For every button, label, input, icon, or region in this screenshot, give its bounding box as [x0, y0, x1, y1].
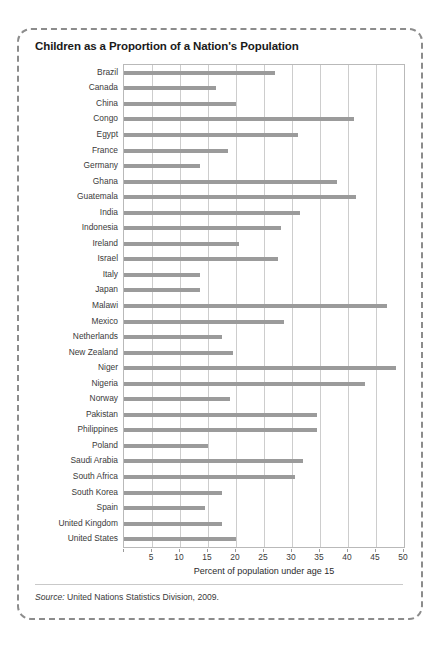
category-label: United Kingdom	[58, 518, 118, 528]
bar	[124, 304, 387, 308]
category-label: Ghana	[93, 176, 118, 186]
tick-label: 35	[314, 552, 323, 562]
bar	[124, 257, 278, 261]
bar	[124, 86, 216, 90]
category-label: Indonesia	[82, 222, 118, 232]
bar	[124, 242, 239, 246]
category-label: Brazil	[97, 67, 118, 77]
plot-area	[123, 64, 405, 548]
bar	[124, 211, 300, 215]
bar	[124, 133, 298, 137]
tick-label: 25	[258, 552, 267, 562]
bar	[124, 195, 356, 199]
category-label: Canada	[89, 82, 118, 92]
bar	[124, 537, 236, 541]
bar	[124, 366, 396, 370]
bar	[124, 288, 200, 292]
bar	[124, 102, 236, 106]
source-label: Source:	[35, 592, 65, 602]
tick-label: 45	[370, 552, 379, 562]
category-label: Japan	[95, 284, 118, 294]
category-label: Pakistan	[86, 409, 118, 419]
category-label: Ireland	[92, 238, 118, 248]
source-note: Source: United Nations Statistics Divisi…	[35, 592, 219, 602]
bar	[124, 164, 200, 168]
category-label: South Korea	[71, 487, 118, 497]
category-axis-labels: BrazilCanadaChinaCongoEgyptFranceGermany…	[35, 64, 121, 548]
bar	[124, 226, 281, 230]
bar	[124, 149, 228, 153]
bar	[124, 351, 233, 355]
bar	[124, 273, 200, 277]
bar	[124, 475, 295, 479]
category-label: China	[96, 98, 118, 108]
category-label: United States	[68, 533, 118, 543]
tick-label: 5	[149, 552, 154, 562]
category-label: South Africa	[73, 471, 118, 481]
category-label: Congo	[93, 113, 118, 123]
bar-chart: BrazilCanadaChinaCongoEgyptFranceGermany…	[35, 64, 409, 564]
bar	[124, 491, 222, 495]
tick-label: 30	[286, 552, 295, 562]
source-text: United Nations Statistics Division, 2009…	[65, 592, 219, 602]
category-label: Norway	[90, 393, 118, 403]
category-label: Malawi	[92, 300, 118, 310]
x-axis-ticks: 5101520253035404550	[123, 549, 405, 563]
bar	[124, 522, 222, 526]
category-label: Philippines	[77, 424, 118, 434]
category-label: Spain	[97, 502, 118, 512]
tick-mark	[123, 549, 124, 552]
category-label: Niger	[98, 362, 118, 372]
figure-title: Children as a Proportion of a Nation's P…	[35, 40, 299, 52]
bar	[124, 459, 303, 463]
category-label: Saudi Arabia	[71, 455, 119, 465]
bar	[124, 397, 230, 401]
bar	[124, 335, 222, 339]
category-label: New Zealand	[69, 347, 118, 357]
tick-label: 10	[174, 552, 183, 562]
bar	[124, 320, 284, 324]
category-label: Mexico	[91, 316, 118, 326]
category-label: Nigeria	[91, 378, 118, 388]
category-label: Netherlands	[73, 331, 118, 341]
bar	[124, 382, 365, 386]
source-divider	[35, 584, 403, 585]
tick-label: 15	[202, 552, 211, 562]
bar	[124, 428, 317, 432]
bar	[124, 117, 354, 121]
tick-label: 50	[398, 552, 407, 562]
bar	[124, 180, 337, 184]
bar	[124, 444, 208, 448]
bar	[124, 413, 317, 417]
category-label: Poland	[92, 440, 118, 450]
category-label: India	[100, 207, 118, 217]
category-label: Guatemala	[77, 191, 118, 201]
category-label: Israel	[98, 253, 118, 263]
category-label: Italy	[103, 269, 118, 279]
tick-label: 40	[342, 552, 351, 562]
bar	[124, 506, 205, 510]
category-label: France	[92, 145, 118, 155]
bar	[124, 71, 275, 75]
x-axis-title: Percent of population under age 15	[123, 566, 405, 576]
tick-label: 20	[230, 552, 239, 562]
category-label: Egypt	[97, 129, 118, 139]
category-label: Germany	[84, 160, 118, 170]
figure-container: Children as a Proportion of a Nation's P…	[17, 28, 423, 620]
